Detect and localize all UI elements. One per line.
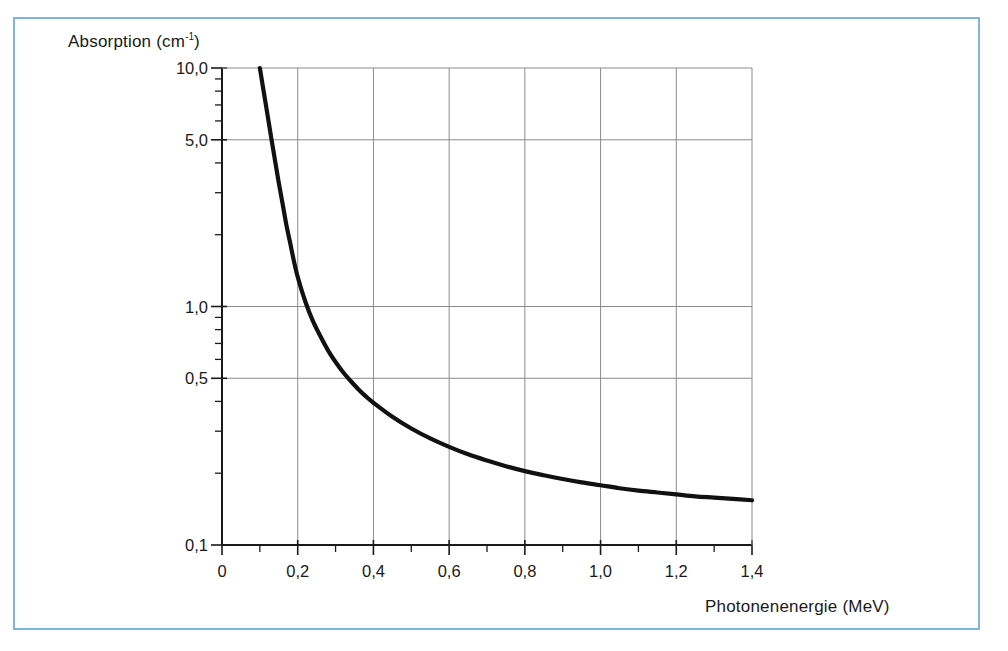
x-axis-tick-label: 1,4	[741, 562, 764, 581]
x-axis-tick-label: 0,8	[513, 562, 536, 581]
y-axis-minor-ticks	[215, 79, 222, 473]
y-axis-tick-label: 0,1	[142, 536, 208, 555]
y-axis-tick-label: 0,5	[142, 369, 208, 388]
x-axis-tick-label: 0	[217, 562, 226, 581]
figure-page: Absorption (cm-1) Photonenenergie (MeV) …	[0, 0, 1008, 651]
chart-area: Absorption (cm-1) Photonenenergie (MeV) …	[0, 0, 1008, 651]
x-axis-title: Photonenenergie (MeV)	[705, 597, 890, 617]
y-axis-title: Absorption (cm-1)	[68, 31, 200, 52]
absorption-curve	[260, 68, 752, 500]
y-axis-unit-exponent: -1	[185, 31, 194, 42]
y-axis-tick-label: 5,0	[142, 130, 208, 149]
x-axis-tick-label: 0,2	[286, 562, 309, 581]
x-axis-minor-ticks	[260, 545, 714, 552]
horizontal-gridlines	[222, 140, 752, 379]
x-axis-tick-label: 0,6	[438, 562, 461, 581]
y-axis-tick-label: 10,0	[142, 59, 208, 78]
x-axis-tick-label: 1,2	[665, 562, 688, 581]
y-axis-tick-label: 1,0	[142, 297, 208, 316]
x-axis-tick-label: 0,4	[362, 562, 385, 581]
x-axis-tick-label: 1,0	[589, 562, 612, 581]
y-axis-title-suffix: )	[194, 32, 200, 51]
y-axis-title-text: Absorption (cm	[68, 32, 185, 51]
